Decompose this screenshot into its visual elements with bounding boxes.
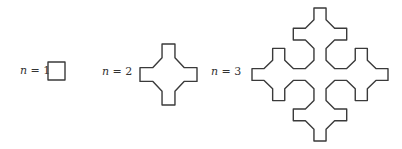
curve-order-2 [140, 44, 197, 105]
curve-order-3 [252, 8, 388, 141]
curve-path [252, 8, 388, 141]
curve-path [48, 62, 65, 80]
curve-path [140, 44, 197, 105]
label-n1: n = 1 [20, 64, 50, 77]
label-n2: n = 2 [102, 65, 132, 78]
label-n3: n = 3 [211, 65, 241, 78]
curve-order-1 [48, 62, 65, 80]
